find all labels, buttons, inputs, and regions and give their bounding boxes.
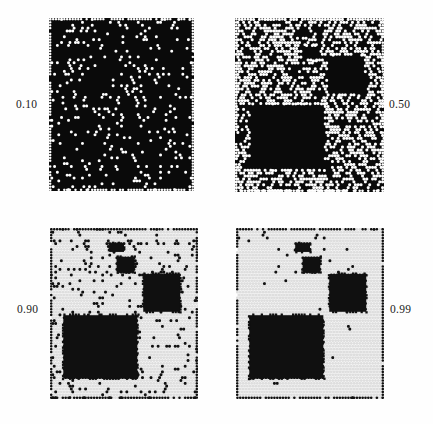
lattice-canvas [235,18,384,192]
panel-label-0-90: 0.90 [17,303,38,315]
figure-panel-grid: 0.10 0.50 0.90 0.99 [0,0,433,424]
lattice-panel-0-99 [236,228,384,399]
lattice-panel-0-10 [49,18,194,191]
lattice-canvas [50,228,198,399]
lattice-canvas [49,18,194,191]
lattice-canvas [236,228,384,399]
lattice-panel-0-90 [50,228,198,399]
panel-label-0-50: 0.50 [389,98,410,110]
lattice-panel-0-50 [235,18,384,192]
panel-label-0-10: 0.10 [16,98,37,110]
panel-label-0-99: 0.99 [390,303,411,315]
